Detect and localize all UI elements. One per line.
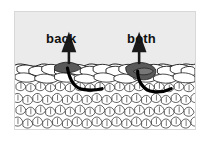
stitch-diagram-figure [14, 11, 196, 130]
image-canvas: back both [0, 0, 211, 141]
second-row-stitches [15, 73, 195, 83]
label-both: both [127, 31, 156, 46]
label-back: back [46, 31, 76, 46]
stitch-diagram-svg [15, 12, 195, 129]
